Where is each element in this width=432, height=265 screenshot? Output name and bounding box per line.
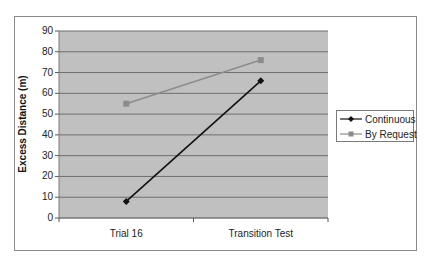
y-tick-label: 0	[33, 212, 53, 223]
x-tick-label: Transition Test	[229, 228, 293, 239]
y-tick-label: 50	[33, 108, 53, 119]
y-tick-label: 90	[33, 25, 53, 36]
y-tick-label: 60	[33, 87, 53, 98]
legend-item-continuous: Continuous	[340, 112, 416, 126]
plot-background	[59, 31, 328, 218]
data-point	[258, 57, 264, 63]
legend: Continuous By Request	[336, 110, 414, 142]
y-tick-label: 20	[33, 170, 53, 181]
y-tick-label: 10	[33, 191, 53, 202]
y-tick-label: 70	[33, 67, 53, 78]
legend-label: By Request	[365, 129, 417, 140]
data-point	[123, 101, 129, 107]
x-tick-label: Trial 16	[110, 228, 143, 239]
y-tick-label: 80	[33, 46, 53, 57]
legend-label: Continuous	[365, 114, 416, 125]
y-axis-label: Excess Distance (m)	[17, 75, 28, 172]
y-tick-label: 30	[33, 150, 53, 161]
y-tick-label: 40	[33, 129, 53, 140]
diamond-marker-icon	[340, 114, 362, 124]
square-marker-icon	[340, 129, 362, 139]
legend-item-by-request: By Request	[340, 127, 417, 141]
